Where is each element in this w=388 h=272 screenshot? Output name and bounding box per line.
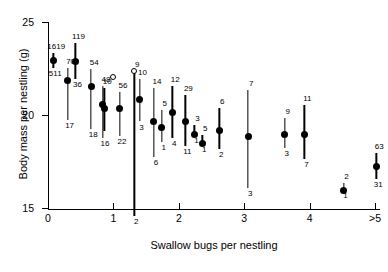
sample-size-label-top: 29 (184, 85, 193, 93)
sample-size-label-bottom: 22 (117, 138, 126, 146)
sample-size-label-top: 5 (163, 100, 167, 108)
sample-size-label-top: 119 (72, 33, 85, 41)
y-tick-label: 25 (8, 17, 34, 27)
sample-size-label-bottom: 36 (73, 81, 82, 89)
x-tick-label: 2 (164, 213, 194, 224)
data-marker-filled (245, 133, 252, 140)
data-marker-filled (64, 77, 71, 84)
x-tick-mark (310, 203, 311, 209)
data-marker-filled (50, 57, 57, 64)
data-marker-filled (182, 118, 189, 125)
sample-size-label-top: 10 (138, 69, 147, 77)
x-axis-line (48, 209, 380, 210)
y-tick-label: 15 (8, 203, 34, 213)
x-tick-label: >5 (360, 213, 388, 224)
x-tick-mark (113, 203, 114, 209)
x-tick-mark (48, 203, 49, 209)
x-tick-mark (375, 203, 376, 209)
x-tick-label: 1 (98, 213, 128, 224)
x-tick-label: 0 (33, 213, 63, 224)
y-tick-mark (42, 115, 48, 116)
sample-size-label-top: 14 (152, 78, 161, 86)
sample-size-label-top: 5 (203, 125, 207, 133)
sample-size-label-bottom: 2 (134, 218, 138, 226)
sample-size-label-top: 54 (90, 59, 99, 67)
sample-size-label-bottom: 4 (172, 140, 176, 148)
data-marker-filled (158, 124, 165, 131)
y-tick-mark (42, 22, 48, 23)
sample-size-label-bottom: 3 (248, 190, 252, 198)
data-marker-filled (281, 131, 288, 138)
x-tick-mark (179, 203, 180, 209)
data-marker-filled (301, 131, 308, 138)
sample-size-label-bottom: 1 (202, 146, 206, 154)
sample-size-label-bottom: 31 (374, 181, 383, 189)
sample-size-label-top: 11 (303, 95, 311, 103)
sample-size-label-bottom: 3 (139, 124, 143, 132)
error-bar (119, 92, 120, 137)
sample-size-label-bottom: 3 (285, 150, 289, 158)
sample-size-label-top: 6 (220, 98, 224, 106)
sample-size-label-bottom: 2 (219, 151, 223, 159)
sample-size-label-top: 1619 (47, 43, 65, 51)
data-marker-filled (101, 105, 108, 112)
sample-size-label-top: 9 (286, 108, 290, 116)
sample-size-label-top: 7 (249, 80, 253, 88)
sample-size-label-top: 56 (118, 82, 127, 90)
data-marker-filled (373, 163, 380, 170)
sample-size-label-bottom: 1 (162, 144, 166, 152)
data-marker-filled (136, 96, 143, 103)
sample-size-label-top: 2 (344, 173, 348, 181)
x-tick-mark (244, 203, 245, 209)
data-marker-filled (216, 127, 223, 134)
data-marker-open (110, 74, 116, 80)
sample-size-label-top: 3 (195, 115, 199, 123)
sample-size-label-bottom: 1 (343, 192, 347, 200)
data-marker-filled (116, 105, 123, 112)
sample-size-label-bottom: 16 (100, 140, 109, 148)
scatter-plot-figure: Body mass per nestling (g) Swallow bugs … (0, 0, 388, 272)
sample-size-label-bottom: 6 (154, 159, 158, 167)
data-marker-filled (72, 58, 79, 65)
error-bar (67, 68, 68, 120)
error-bar (91, 69, 92, 129)
sample-size-label-bottom: 7 (304, 161, 308, 169)
sample-size-label-bottom: 511 (49, 70, 62, 78)
sample-size-label-top: 63 (375, 143, 384, 151)
x-tick-label: 3 (229, 213, 259, 224)
data-marker-filled (169, 109, 176, 116)
sample-size-label-bottom: 11 (183, 148, 191, 156)
sample-size-label-bottom: 18 (89, 131, 98, 139)
y-tick-label: 20 (8, 110, 34, 120)
error-bar (134, 71, 135, 216)
x-tick-label: 4 (295, 213, 325, 224)
sample-size-label-top: 12 (171, 76, 180, 84)
sample-size-label-bottom: 17 (65, 122, 74, 130)
data-marker-filled (150, 118, 157, 125)
data-marker-filled (88, 83, 95, 90)
x-axis-title: Swallow bugs per nestling (48, 239, 380, 251)
